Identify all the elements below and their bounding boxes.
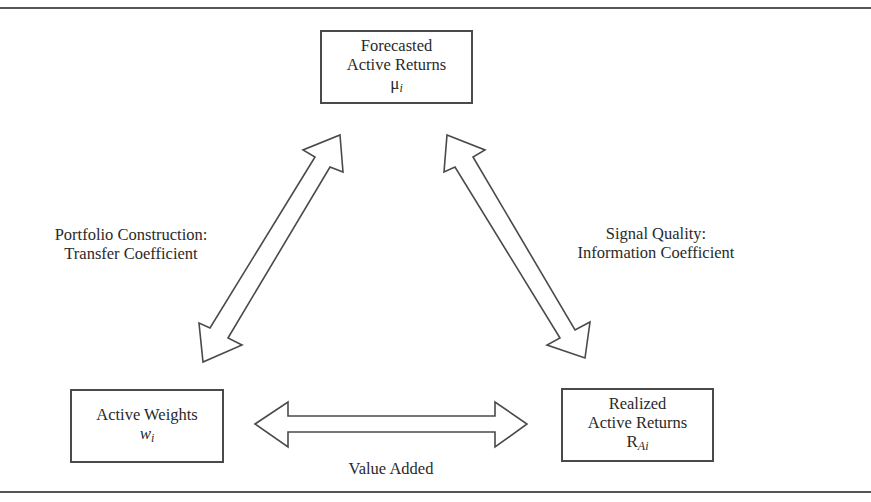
label-line2: Information Coefficient — [553, 243, 759, 262]
node-symbol: μi — [390, 74, 402, 98]
symbol-subscript: i — [151, 431, 154, 445]
label-line1: Portfolio Construction: — [31, 225, 231, 244]
signal-quality-label: Signal Quality: Information Coefficient — [553, 224, 759, 262]
label-line2: Transfer Coefficient — [31, 244, 231, 263]
node-title-line2: Active Returns — [347, 55, 446, 74]
value-added-label: Value Added — [291, 459, 491, 478]
node-title-line1: Active Weights — [96, 405, 197, 424]
double-arrow-icon — [255, 402, 527, 447]
node-title-line1: Realized — [609, 394, 667, 413]
node-title-line2: Active Returns — [588, 413, 687, 432]
symbol-r: R — [626, 432, 637, 451]
symbol-w: w — [140, 424, 151, 443]
active-weights-node: Active Weights wi — [70, 389, 224, 463]
node-title-line1: Forecasted — [361, 36, 432, 55]
node-symbol: RAi — [626, 432, 648, 456]
label-line1: Value Added — [291, 459, 491, 478]
portfolio-construction-label: Portfolio Construction: Transfer Coeffic… — [31, 225, 231, 263]
symbol-subscript: i — [399, 81, 402, 95]
label-line1: Signal Quality: — [553, 224, 759, 243]
node-symbol: wi — [140, 424, 155, 448]
realized-returns-node: Realized Active Returns RAi — [561, 388, 714, 462]
forecasted-returns-node: Forecasted Active Returns μi — [320, 30, 473, 104]
symbol-subscript: Ai — [638, 439, 649, 453]
